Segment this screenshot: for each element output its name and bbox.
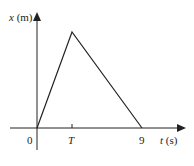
x-axis-label-var: t <box>160 134 163 146</box>
y-axis-label-unit: (m) <box>17 11 33 23</box>
x-axis-label: t (s) <box>160 135 177 146</box>
tick-9-label: 9 <box>139 135 145 146</box>
x-axis-arrow-icon <box>177 124 186 132</box>
y-axis-arrow-icon <box>33 12 41 21</box>
x-axis-label-unit: (s) <box>166 134 178 146</box>
tick-T-label: T <box>68 135 74 146</box>
y-axis-label-var: x <box>9 11 14 23</box>
x-t-curve <box>37 32 142 128</box>
origin-label: 0 <box>27 135 33 146</box>
y-axis-label: x (m) <box>9 12 33 23</box>
